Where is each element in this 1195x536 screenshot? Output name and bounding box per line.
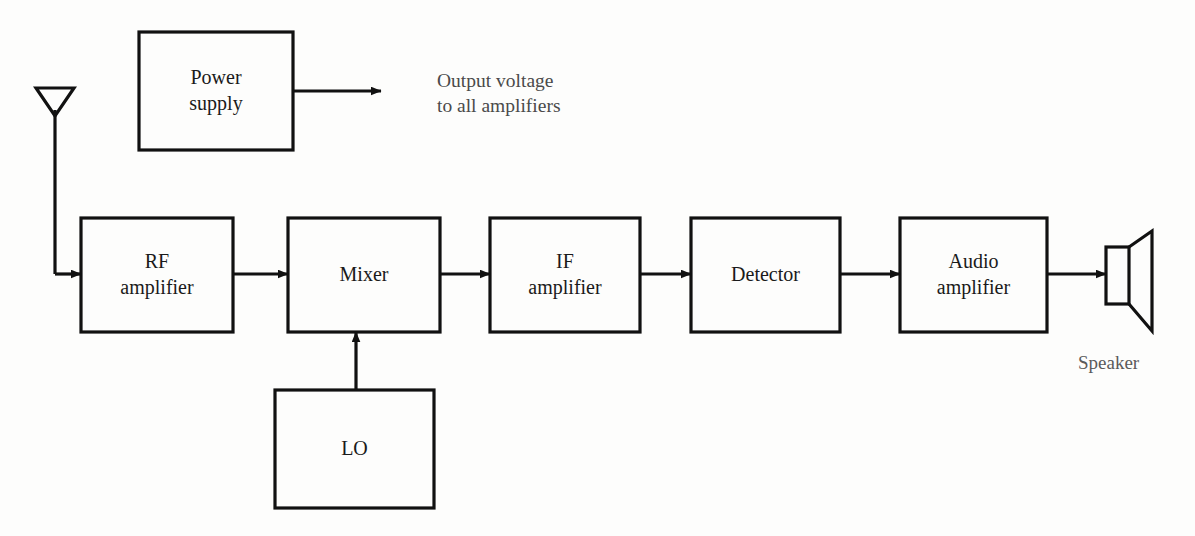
- block-rect-power-supply: [139, 32, 293, 150]
- block-rect-detector: [691, 218, 840, 332]
- antenna-icon: [36, 88, 74, 274]
- speaker-label: Speaker: [1078, 352, 1139, 374]
- diagram-graphics: [0, 0, 1195, 536]
- connection-lines: [55, 91, 1106, 390]
- power-output-annotation-line: to all amplifiers: [437, 93, 560, 118]
- block-rect-mixer: [288, 218, 440, 332]
- diagram-canvas: Power supply RF amplifier Mixer IF ampli…: [0, 0, 1195, 536]
- power-output-annotation-line: Output voltage: [437, 68, 560, 93]
- block-rect-rf-amplifier: [81, 218, 233, 332]
- speaker-icon: [1106, 231, 1152, 331]
- block-rect-lo: [275, 390, 434, 508]
- block-rect-audio-amplifier: [900, 218, 1047, 332]
- block-outlines: [81, 32, 1047, 508]
- block-rect-if-amplifier: [490, 218, 640, 332]
- power-output-annotation: Output voltage to all amplifiers: [437, 68, 560, 119]
